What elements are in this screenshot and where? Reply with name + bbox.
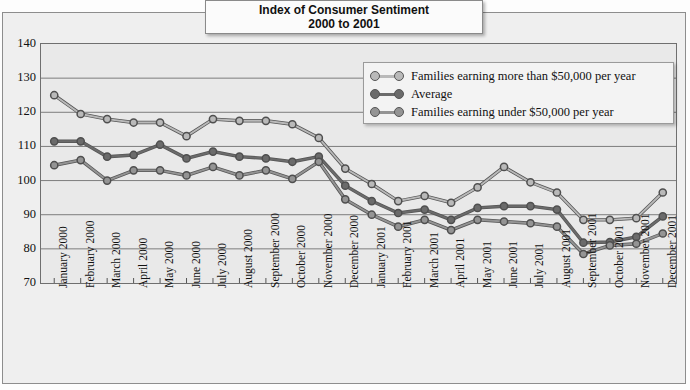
y-axis-tick-120: 120 [2, 104, 36, 119]
x-axis-label-10: November 2000 [311, 286, 325, 386]
x-axis-label-16: May 2001 [470, 286, 484, 386]
data-point [77, 138, 84, 145]
x-axis-label-14: March 2001 [417, 286, 431, 386]
data-point [209, 163, 216, 170]
data-point [553, 206, 560, 213]
x-axis-label-7: August 2000 [231, 286, 245, 386]
data-point [156, 141, 163, 148]
data-point [368, 180, 375, 187]
x-axis-label-21: October 2001 [602, 286, 616, 386]
y-axis-tick-70: 70 [2, 275, 36, 290]
data-point [156, 167, 163, 174]
chart-title: Index of Consumer Sentiment 2000 to 2001 [205, 0, 483, 34]
consumer-sentiment-chart: Index of Consumer Sentiment 2000 to 2001… [0, 0, 690, 390]
data-point [315, 158, 322, 165]
x-axis-label-8: September 2000 [258, 286, 272, 386]
x-axis-label-text: February 2000 [84, 221, 96, 288]
data-point [474, 204, 481, 211]
data-point [289, 121, 296, 128]
legend-item-2[interactable]: Families earning under $50,000 per year [370, 103, 667, 121]
x-axis-label-text: June 2000 [190, 241, 202, 288]
x-axis-label-15: April 2001 [443, 286, 457, 386]
data-point [395, 209, 402, 216]
x-axis-label-text: June 2001 [507, 241, 519, 288]
legend-item-0[interactable]: Families earning more than $50,000 per y… [370, 67, 667, 85]
data-point [342, 165, 349, 172]
x-axis-label-text: July 2000 [216, 243, 228, 288]
chart-title-line1: Index of Consumer Sentiment [259, 3, 429, 17]
data-point [51, 138, 58, 145]
data-point [500, 203, 507, 210]
data-point [553, 189, 560, 196]
x-axis-label-text: November 2001 [639, 214, 651, 288]
x-axis-label-23: December 2001 [655, 286, 669, 386]
legend-marker-icon [370, 106, 404, 118]
data-point [342, 182, 349, 189]
data-point [527, 203, 534, 210]
x-axis-label-text: October 2001 [613, 225, 625, 288]
data-point [474, 216, 481, 223]
x-axis-label-text: February 2001 [401, 221, 413, 288]
x-axis-label-text: October 2000 [295, 225, 307, 288]
legend-item-label: Families earning more than $50,000 per y… [411, 69, 636, 84]
x-axis-label-text: May 2001 [481, 241, 493, 288]
y-axis-tick-140: 140 [2, 36, 36, 51]
data-point [77, 156, 84, 163]
x-axis-labels: January 2000February 2000March 2000April… [40, 286, 677, 390]
data-point [130, 151, 137, 158]
data-point [130, 119, 137, 126]
data-point [448, 216, 455, 223]
data-point [606, 216, 613, 223]
x-axis-label-text: September 2001 [586, 213, 598, 288]
legend-marker-icon [370, 88, 404, 100]
data-point [395, 197, 402, 204]
data-point [262, 155, 269, 162]
y-axis-tick-130: 130 [2, 70, 36, 85]
data-point [289, 175, 296, 182]
x-axis-label-text: January 2000 [57, 226, 69, 288]
data-point [236, 153, 243, 160]
chart-title-line2: 2000 to 2001 [308, 17, 379, 31]
data-point [421, 192, 428, 199]
x-axis-label-text: May 2000 [163, 241, 175, 288]
legend-item-1[interactable]: Average [370, 85, 667, 103]
data-point [104, 153, 111, 160]
x-axis-label-11: December 2000 [337, 286, 351, 386]
x-axis-label-text: December 2001 [666, 215, 678, 288]
data-point [183, 133, 190, 140]
x-axis-label-6: July 2000 [205, 286, 219, 386]
x-axis-label-20: September 2001 [575, 286, 589, 386]
data-point [421, 206, 428, 213]
data-point [368, 211, 375, 218]
x-axis-label-4: May 2000 [152, 286, 166, 386]
x-axis-label-text: August 2000 [242, 229, 254, 288]
legend-marker-icon [370, 70, 404, 82]
data-point [474, 184, 481, 191]
data-point [659, 189, 666, 196]
x-axis-label-text: March 2001 [428, 232, 440, 288]
x-axis-label-3: April 2000 [126, 286, 140, 386]
x-axis-label-text: March 2000 [110, 232, 122, 288]
data-point [104, 177, 111, 184]
x-axis-label-12: January 2001 [364, 286, 378, 386]
data-point [209, 116, 216, 123]
x-axis-label-18: July 2001 [522, 286, 536, 386]
x-axis-label-19: August 2001 [549, 286, 563, 386]
chart-legend: Families earning more than $50,000 per y… [363, 62, 674, 124]
data-point [104, 116, 111, 123]
data-point [236, 172, 243, 179]
data-point [448, 226, 455, 233]
x-axis-label-text: August 2001 [560, 229, 572, 288]
x-axis-label-text: April 2000 [137, 238, 149, 288]
x-axis-label-13: February 2001 [390, 286, 404, 386]
y-axis-labels: 140130120110100908070 [0, 43, 36, 284]
x-axis-label-5: June 2000 [179, 286, 193, 386]
data-point [183, 172, 190, 179]
data-point [448, 199, 455, 206]
y-axis-tick-80: 80 [2, 241, 36, 256]
data-point [236, 117, 243, 124]
data-point [130, 167, 137, 174]
data-point [183, 155, 190, 162]
x-axis-label-text: September 2000 [269, 213, 281, 288]
data-point [500, 218, 507, 225]
